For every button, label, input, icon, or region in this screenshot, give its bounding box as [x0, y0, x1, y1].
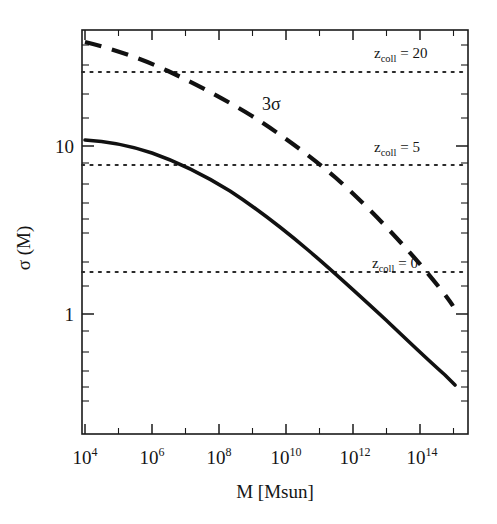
- y-axis-title: σ (M): [13, 226, 35, 271]
- ytick-1: 1: [65, 304, 75, 325]
- x-axis-title: M [Msun]: [236, 481, 314, 502]
- plot-background: [0, 0, 497, 524]
- figure-panel: 104 106 108 1010 1012 1014 10 1 M [Msun]: [0, 0, 497, 524]
- ytick-10: 10: [55, 136, 74, 157]
- sigma-of-mass-plot: 104 106 108 1010 1012 1014 10 1 M [Msun]: [0, 0, 497, 524]
- label-three-sigma: 3σ: [262, 94, 281, 114]
